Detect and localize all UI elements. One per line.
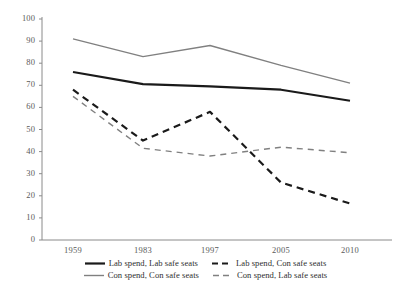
y-tick-label: 70 — [9, 80, 35, 89]
chart-legend: Lab spend, Lab safe seatsLab spend, Con … — [0, 258, 411, 280]
y-tick-label: 60 — [9, 102, 35, 111]
y-tick-label: 0 — [9, 235, 35, 244]
legend-item[interactable]: Lab spend, Con safe seats — [212, 258, 326, 268]
legend-label: Con spend, Con safe seats — [108, 270, 199, 280]
legend-swatch-line-icon — [84, 271, 104, 280]
series-line-0 — [73, 72, 350, 101]
y-tick-label: 40 — [9, 147, 35, 156]
legend-label: Con spend, Lab safe seats — [237, 270, 327, 280]
y-tick-label: 10 — [9, 213, 35, 222]
series-line-3 — [73, 96, 350, 156]
line-chart: 1009080706050403020100 19591983199720052… — [0, 0, 411, 300]
legend-row: Lab spend, Lab safe seatsLab spend, Con … — [78, 258, 334, 268]
y-tick-label: 20 — [9, 191, 35, 200]
x-tick-label: 2010 — [328, 245, 372, 255]
y-tick-label: 50 — [9, 125, 35, 134]
x-tick-label: 1983 — [121, 245, 165, 255]
x-tick-label: 1959 — [51, 245, 95, 255]
legend-label: Lab spend, Con safe seats — [236, 258, 326, 268]
x-tick-label: 2005 — [259, 245, 303, 255]
plot-svg — [0, 0, 411, 262]
legend-item[interactable]: Con spend, Lab safe seats — [213, 270, 327, 280]
plot-area: 1009080706050403020100 19591983199720052… — [0, 0, 411, 262]
y-tick-label: 30 — [9, 169, 35, 178]
y-tick-label: 90 — [9, 36, 35, 45]
series-line-2 — [73, 39, 350, 83]
legend-label: Lab spend, Lab safe seats — [109, 258, 198, 268]
legend-swatch-line-icon — [212, 259, 232, 268]
legend-item[interactable]: Con spend, Con safe seats — [84, 270, 199, 280]
legend-swatch-line-icon — [213, 271, 233, 280]
legend-row: Con spend, Con safe seatsCon spend, Lab … — [77, 270, 335, 280]
y-tick-label: 100 — [9, 14, 35, 23]
legend-item[interactable]: Lab spend, Lab safe seats — [85, 258, 198, 268]
legend-swatch-line-icon — [85, 259, 105, 268]
y-tick-label: 80 — [9, 58, 35, 67]
x-tick-label: 1997 — [188, 245, 232, 255]
series-line-1 — [73, 90, 350, 204]
